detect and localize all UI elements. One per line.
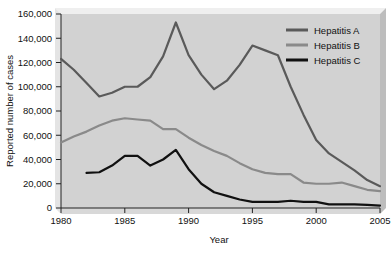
x-axis-tick-labels: 1980 1985 1990 1995 2000 2005 [50, 215, 390, 226]
x-tick-label: 1980 [50, 215, 71, 226]
y-tick-label: 80,000 [23, 105, 52, 116]
y-tick-label: 20,000 [23, 178, 52, 189]
legend-label: Hepatitis A [314, 25, 360, 36]
chart-legend: Hepatitis A Hepatitis B Hepatitis C [286, 25, 361, 66]
y-tick-label: 140,000 [18, 33, 52, 44]
y-tick-label: 60,000 [23, 130, 52, 141]
y-tick-label: 160,000 [18, 8, 52, 19]
x-tick-label: 2000 [306, 215, 327, 226]
y-tick-label: 40,000 [23, 154, 52, 165]
y-tick-label: 0 [47, 202, 52, 213]
y-axis-title: Reported number of cases [4, 55, 15, 167]
legend-label: Hepatitis C [314, 55, 361, 66]
chart-figure: 0 20,000 40,000 60,000 80,000 100,000 12… [0, 0, 392, 256]
x-tick-label: 2005 [369, 215, 390, 226]
y-tick-label: 120,000 [18, 57, 52, 68]
legend-label: Hepatitis B [314, 40, 360, 51]
x-tick-label: 1990 [178, 215, 199, 226]
x-tick-label: 1995 [242, 215, 263, 226]
y-tick-label: 100,000 [18, 81, 52, 92]
y-axis-tick-labels: 0 20,000 40,000 60,000 80,000 100,000 12… [18, 8, 52, 213]
x-axis-title: Year [209, 234, 228, 245]
line-chart: 0 20,000 40,000 60,000 80,000 100,000 12… [0, 0, 392, 256]
x-tick-label: 1985 [114, 215, 135, 226]
